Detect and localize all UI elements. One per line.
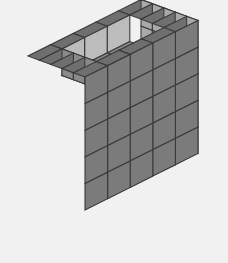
isometric-cube-stack-svg <box>0 0 228 263</box>
isometric-scene-stage <box>0 0 228 263</box>
